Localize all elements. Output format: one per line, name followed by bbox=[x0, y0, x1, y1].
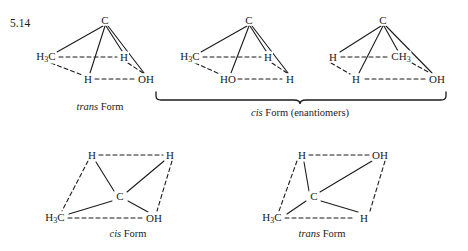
structure-3-atom-oh-front-right: OH bbox=[428, 74, 446, 85]
structure-3-atom-h-left: H bbox=[328, 52, 338, 63]
caption-structure-1: trans Form bbox=[77, 101, 124, 112]
structure-2-atom-h-right: H bbox=[263, 52, 273, 63]
structure-2-atom-h-front-right: H bbox=[285, 74, 295, 85]
structure-2-atom-methyl-left: H3C bbox=[179, 51, 200, 64]
caption-5-rest: Form bbox=[320, 228, 345, 239]
caption-brace-rest: Form (enantiomers) bbox=[263, 107, 349, 118]
caption-5-italic: trans bbox=[299, 228, 321, 239]
structure-2-bonds bbox=[195, 26, 288, 79]
structures-diagram bbox=[0, 0, 468, 251]
structure-4-atom-oh-bottom-right: OH bbox=[145, 213, 163, 224]
structure-4-atom-methyl-bottom-left: H3C bbox=[44, 212, 65, 225]
caption-1-italic: trans bbox=[77, 101, 99, 112]
structure-5-center-carbon: C bbox=[309, 191, 318, 202]
grouping-brace bbox=[156, 92, 446, 104]
structure-1-atom-methyl-left: H3C bbox=[35, 51, 56, 64]
structure-4-atom-h-top-right: H bbox=[165, 150, 175, 161]
caption-brace-group: cis Form (enantiomers) bbox=[251, 107, 349, 118]
caption-structure-5: trans Form bbox=[299, 228, 346, 239]
caption-1-rest: Form bbox=[98, 101, 123, 112]
caption-structure-4: cis Form bbox=[109, 228, 146, 239]
structure-1-atom-h-front: H bbox=[83, 74, 93, 85]
structure-5-atom-h-top-left: H bbox=[297, 150, 307, 161]
structure-3-atom-methyl-right: CH3 bbox=[390, 51, 411, 64]
structure-1-atom-oh-front-right: OH bbox=[137, 74, 155, 85]
structure-3-bonds bbox=[331, 26, 432, 79]
structure-5-atom-oh-top-right: OH bbox=[371, 150, 389, 161]
structure-1-apex-carbon: C bbox=[100, 15, 109, 26]
caption-brace-italic: cis bbox=[251, 107, 263, 118]
caption-4-rest: Form bbox=[121, 228, 146, 239]
structure-5-atom-h-bottom-right: H bbox=[359, 213, 369, 224]
structure-4-center-carbon: C bbox=[115, 191, 124, 202]
structure-2-apex-carbon: C bbox=[244, 15, 253, 26]
structure-2-atom-ho-front: HO bbox=[219, 74, 237, 85]
structure-1-atom-h-right: H bbox=[119, 52, 129, 63]
structure-3-apex-carbon: C bbox=[378, 15, 387, 26]
structure-1-bonds bbox=[51, 26, 144, 79]
structure-3-atom-h-front: H bbox=[351, 74, 361, 85]
structure-4-atom-h-top-left: H bbox=[87, 150, 97, 161]
structure-5-bonds bbox=[279, 155, 385, 218]
structure-5-atom-methyl-bottom-left: H3C bbox=[261, 212, 282, 225]
caption-4-italic: cis bbox=[109, 228, 121, 239]
structure-4-bonds bbox=[62, 155, 172, 218]
